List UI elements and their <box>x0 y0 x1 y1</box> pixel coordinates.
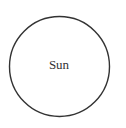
sun-label: Sun <box>0 57 118 73</box>
